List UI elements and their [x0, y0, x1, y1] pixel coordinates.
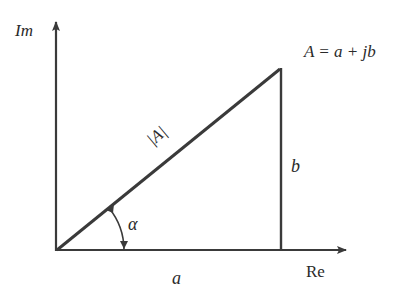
phasor-diagram: Im Re A = a + jb |A| α b a: [0, 0, 407, 297]
imaginary-part-label: b: [291, 156, 300, 176]
real-part-label: a: [172, 268, 181, 288]
angle-arc-arrow-bottom-icon: [120, 241, 128, 249]
magnitude-vector: [57, 69, 280, 250]
angle-label: α: [128, 214, 138, 234]
imaginary-axis-label: Im: [14, 21, 33, 40]
magnitude-label: |A|: [143, 122, 170, 149]
equation-label: A = a + jb: [303, 42, 376, 61]
real-axis-label: Re: [306, 262, 325, 281]
